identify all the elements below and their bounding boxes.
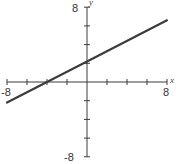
y-max-tick-label: 8 — [72, 2, 78, 14]
x-max-tick-label: 8 — [163, 86, 169, 98]
coordinate-plane: 8 -8 -8 8 x y — [0, 0, 176, 164]
axes — [7, 7, 167, 157]
x-min-tick-label: -8 — [1, 86, 11, 98]
x-axis-label: x — [169, 75, 174, 85]
y-min-tick-label: -8 — [64, 151, 74, 163]
y-axis-label: y — [88, 0, 93, 7]
